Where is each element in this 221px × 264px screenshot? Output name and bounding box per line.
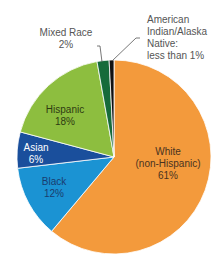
label-hispanic: Hispanic 18% bbox=[40, 104, 90, 128]
mixed-leader-line bbox=[97, 46, 102, 62]
label-white: White (non-Hispanic) 61% bbox=[126, 146, 210, 182]
label-asian: Asian 6% bbox=[18, 142, 54, 166]
label-mixed-race: Mixed Race 2% bbox=[36, 27, 96, 51]
aian-leader-line bbox=[112, 38, 140, 61]
label-black: Black 12% bbox=[34, 176, 74, 200]
label-american-indian-alaska-native: American Indian/Alaska Native: less than… bbox=[147, 14, 207, 62]
